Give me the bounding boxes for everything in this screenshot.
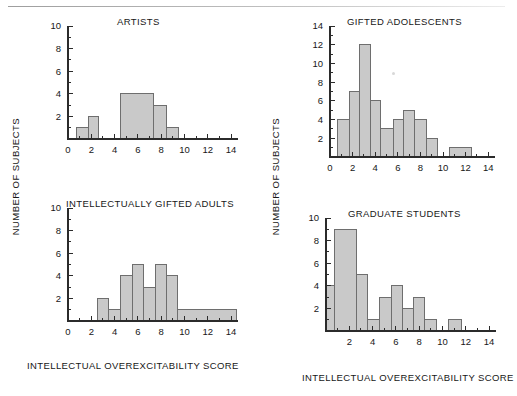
x-tick-label: 4 xyxy=(112,326,117,337)
x-tick-label: 2 xyxy=(347,336,352,347)
x-tick-label: 4 xyxy=(373,162,378,173)
y-tick-label: 2 xyxy=(56,111,61,122)
x-tick-label: 8 xyxy=(159,326,164,337)
histogram-bar xyxy=(356,275,368,332)
plot-area-gifted-adolescents: 024681012142468101214 xyxy=(300,14,512,182)
x-tick-label: 2 xyxy=(89,326,94,337)
x-tick-label: 10 xyxy=(438,162,449,173)
y-tick-label: 4 xyxy=(56,270,61,281)
histogram-gifted-adolescents: 024681012142468101214 xyxy=(300,14,512,182)
x-tick-label: 12 xyxy=(460,162,471,173)
histogram-bar xyxy=(338,120,350,157)
histogram-bar xyxy=(448,320,461,331)
histogram-bar xyxy=(153,105,166,139)
x-tick-label: 14 xyxy=(483,162,494,173)
y-tick-label: 6 xyxy=(314,258,319,269)
histogram-bar xyxy=(393,120,403,157)
chart-panel-artists: ARTISTS 02468101214246810 xyxy=(42,14,257,164)
x-tick-label: 8 xyxy=(417,336,422,347)
histogram-intellectually-gifted-adults: 02468101214246810 xyxy=(42,196,257,346)
y-tick-label: 10 xyxy=(50,202,61,213)
histogram-bar xyxy=(166,128,178,139)
histogram-bar xyxy=(350,92,360,158)
x-tick-label: 2 xyxy=(350,162,355,173)
histogram-bar xyxy=(403,110,414,157)
histogram-bar xyxy=(371,101,381,157)
x-tick-label: 12 xyxy=(202,326,213,337)
axis-label-y-left: NUMBER OF SUBJECTS xyxy=(10,118,21,235)
y-tick-label: 6 xyxy=(318,95,323,106)
histogram-bar xyxy=(368,320,380,331)
x-tick-label: 6 xyxy=(135,144,140,155)
x-tick-label: 0 xyxy=(65,144,70,155)
plot-area-intellectually-gifted-adults: 02468101214246810 xyxy=(42,196,257,346)
y-tick-label: 6 xyxy=(56,248,61,259)
x-tick-label: 12 xyxy=(460,336,471,347)
y-tick-label: 12 xyxy=(312,39,323,50)
chart-panel-graduate-students: GRADUATE STUDENTS 2468101214246810 xyxy=(300,206,512,356)
x-tick-label: 0 xyxy=(65,326,70,337)
x-tick-label: 6 xyxy=(395,162,400,173)
histogram-bar xyxy=(120,276,132,321)
x-tick-label: 8 xyxy=(418,162,423,173)
histogram-bar xyxy=(450,148,471,157)
histogram-bar xyxy=(76,128,88,139)
x-tick-label: 4 xyxy=(112,144,117,155)
axis-label-x-left: INTELLECTUAL OVEREXCITABILITY SCORE xyxy=(27,360,239,371)
x-tick-label: 4 xyxy=(370,336,375,347)
y-tick-label: 8 xyxy=(318,77,323,88)
y-tick-label: 6 xyxy=(56,66,61,77)
chart-panel-gifted-adolescents: GIFTED ADOLESCENTS 024681012142468101214 xyxy=(300,14,512,182)
x-tick-label: 6 xyxy=(393,336,398,347)
plot-area-graduate-students: 2468101214246810 xyxy=(300,206,512,356)
x-tick-label: 14 xyxy=(226,326,237,337)
histogram-bar xyxy=(177,310,236,321)
y-tick-label: 10 xyxy=(308,212,319,223)
x-tick-label: 12 xyxy=(202,144,213,155)
histogram-bar xyxy=(403,308,413,331)
x-tick-label: 10 xyxy=(179,326,190,337)
x-tick-label: 0 xyxy=(327,162,332,173)
axis-label-y-right: NUMBER OF SUBJECTS xyxy=(270,118,281,235)
x-tick-label: 14 xyxy=(226,144,237,155)
histogram-bar xyxy=(380,297,392,331)
histogram-bar xyxy=(144,287,156,321)
axis-label-x-right: INTELLECTUAL OVEREXCITABILITY SCORE xyxy=(302,372,514,383)
histogram-bar xyxy=(413,297,425,331)
y-tick-label: 8 xyxy=(314,235,319,246)
x-tick-label: 14 xyxy=(484,336,495,347)
y-tick-label: 4 xyxy=(314,280,319,291)
y-tick-label: 2 xyxy=(314,303,319,314)
histogram-bar xyxy=(120,94,153,139)
y-tick-label: 4 xyxy=(56,88,61,99)
y-tick-label: 4 xyxy=(318,114,323,125)
scan-artifact-line xyxy=(8,6,505,7)
x-tick-label: 8 xyxy=(159,144,164,155)
y-tick-label: 10 xyxy=(50,20,61,31)
chart-panel-intellectually-gifted-adults: INTELLECTUALLY GIFTED ADULTS 02468101214… xyxy=(42,196,257,346)
x-tick-label: 10 xyxy=(179,144,190,155)
histogram-graduate-students: 2468101214246810 xyxy=(300,206,512,356)
histogram-bar xyxy=(167,276,177,321)
x-tick-label: 2 xyxy=(89,144,94,155)
x-tick-label: 6 xyxy=(135,326,140,337)
y-tick-label: 2 xyxy=(318,133,323,144)
histogram-artists: 02468101214246810 xyxy=(42,14,257,164)
y-tick-label: 10 xyxy=(312,58,323,69)
histogram-bar xyxy=(155,265,167,322)
histogram-bar xyxy=(359,45,370,157)
y-tick-label: 2 xyxy=(56,293,61,304)
histogram-bar xyxy=(132,265,144,322)
x-tick-label: 10 xyxy=(437,336,448,347)
y-tick-label: 14 xyxy=(312,20,323,31)
histogram-bar xyxy=(391,286,403,331)
histogram-bar xyxy=(88,116,98,139)
y-tick-label: 8 xyxy=(56,225,61,236)
histogram-bar xyxy=(335,229,357,331)
histogram-bar xyxy=(415,120,426,157)
histogram-bar xyxy=(97,298,108,321)
histogram-bar xyxy=(381,129,393,157)
plot-area-artists: 02468101214246810 xyxy=(42,14,257,164)
y-tick-label: 8 xyxy=(56,43,61,54)
